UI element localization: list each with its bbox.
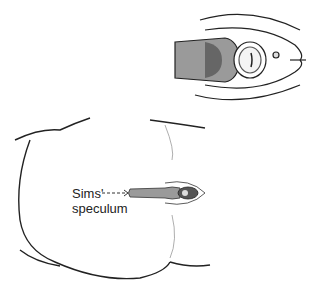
sims-speculum-label: Sims' speculum — [72, 186, 128, 216]
inset-closeup — [175, 14, 306, 99]
illustration — [0, 0, 316, 294]
label-line-2: speculum — [72, 201, 128, 216]
label-line-1: Sims' — [72, 186, 128, 201]
